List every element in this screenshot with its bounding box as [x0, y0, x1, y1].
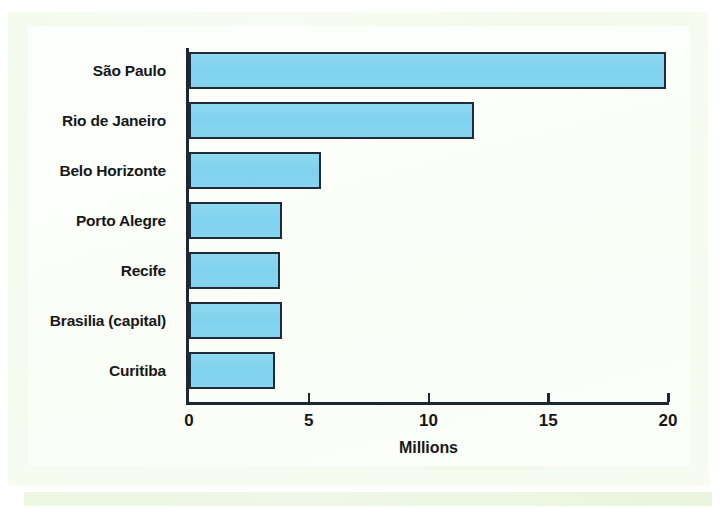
- x-axis-tick-label: 20: [648, 412, 688, 429]
- bar-fill: [191, 54, 664, 87]
- x-axis-title: Millions: [329, 440, 529, 456]
- x-axis-tick-label: 15: [528, 412, 568, 429]
- category-label: Rio de Janeiro: [0, 113, 166, 129]
- category-label: Porto Alegre: [0, 213, 166, 229]
- x-axis-tick-label: 10: [409, 412, 449, 429]
- bar-fill: [191, 154, 319, 187]
- bar-fill: [191, 304, 280, 337]
- bar-fill: [191, 104, 472, 137]
- category-axis-labels: São PauloRio de JaneiroBelo HorizontePor…: [0, 0, 182, 508]
- category-label: Recife: [0, 263, 166, 279]
- x-axis-tick: [547, 393, 550, 402]
- category-label: Curitiba: [0, 363, 166, 379]
- bar: [189, 102, 474, 139]
- x-axis-line: [186, 402, 669, 405]
- bar: [189, 152, 321, 189]
- x-axis-tick-label: 0: [169, 412, 209, 429]
- bar: [189, 252, 280, 289]
- x-axis-tick: [308, 393, 311, 402]
- x-axis-tick: [428, 393, 431, 402]
- bar: [189, 352, 275, 389]
- y-axis-line: [186, 48, 189, 404]
- x-axis-tick-label: 5: [289, 412, 329, 429]
- bar: [189, 302, 282, 339]
- bar: [189, 52, 666, 89]
- scanned-figure-page: São PauloRio de JaneiroBelo HorizontePor…: [0, 0, 721, 508]
- bar: [189, 202, 282, 239]
- x-axis-tick: [667, 393, 670, 402]
- bar-fill: [191, 254, 278, 287]
- bar-fill: [191, 354, 273, 387]
- bar-fill: [191, 204, 280, 237]
- category-label: Brasilia (capital): [0, 313, 166, 329]
- category-label: São Paulo: [0, 63, 166, 79]
- category-label: Belo Horizonte: [0, 163, 166, 179]
- bar-chart: São PauloRio de JaneiroBelo HorizontePor…: [0, 0, 721, 508]
